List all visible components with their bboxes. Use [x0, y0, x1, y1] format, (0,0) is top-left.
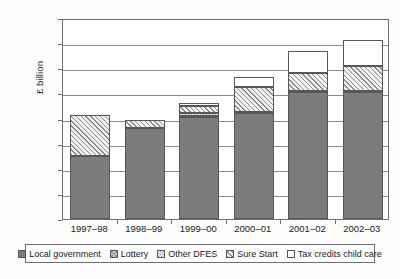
bar-stack: [288, 18, 328, 219]
stacked-bar-chart: £ billion 43.532.521.510.50 1997–981998–…: [0, 0, 400, 279]
legend-item[interactable]: Other DFES: [157, 249, 217, 259]
y-tick-mark: [58, 69, 62, 70]
bar-stack: [125, 18, 165, 219]
bar-segment: [179, 117, 219, 219]
bars-layer: [63, 20, 388, 219]
y-tick-mark: [58, 94, 62, 95]
legend-swatch-icon: [18, 250, 26, 258]
y-tick-mark: [58, 220, 62, 221]
bar-segment: [288, 92, 328, 219]
bar-segment: [179, 103, 219, 106]
bar-segment: [70, 115, 110, 156]
y-tick-mark: [58, 120, 62, 121]
bar-segment: [343, 66, 383, 91]
bar-stack: [234, 18, 274, 219]
bar-segment: [125, 120, 165, 128]
legend-label: Other DFES: [168, 249, 217, 259]
bar-segment: [288, 73, 328, 91]
bar-segment: [343, 40, 383, 66]
bar-segment: [288, 51, 328, 74]
y-tick-mark: [58, 44, 62, 45]
legend-swatch-icon: [287, 250, 295, 258]
legend-item[interactable]: Sure Start: [226, 249, 278, 259]
y-tick-mark: [58, 195, 62, 196]
legend-item[interactable]: Local government: [18, 249, 101, 259]
y-tick-mark: [58, 19, 62, 20]
legend-label: Sure Start: [237, 249, 278, 259]
bar-segment: [234, 77, 274, 87]
bar-stack: [70, 18, 110, 219]
bar-segment: [125, 128, 165, 219]
bar-segment: [234, 113, 274, 219]
legend-item[interactable]: Tax credits child care: [287, 249, 382, 259]
chart-legend: Local governmentLotteryOther DFESSure St…: [25, 244, 375, 263]
bar-segment: [179, 113, 219, 116]
legend-swatch-icon: [157, 250, 165, 258]
legend-item[interactable]: Lottery: [110, 249, 149, 259]
plot-area: [62, 19, 389, 220]
legend-swatch-icon: [226, 250, 234, 258]
legend-label: Lottery: [121, 249, 149, 259]
bar-segment: [70, 156, 110, 219]
bar-stack: [179, 18, 219, 219]
bar-segment: [234, 87, 274, 112]
bar-segment: [343, 92, 383, 219]
bar-stack: [343, 18, 383, 219]
y-tick-mark: [58, 170, 62, 171]
legend-swatch-icon: [110, 250, 118, 258]
legend-label: Local government: [29, 249, 101, 259]
y-axis-title: £ billion: [34, 33, 45, 123]
bar-segment: [179, 106, 219, 113]
x-tick-label: 2002–03: [330, 223, 394, 234]
legend-label: Tax credits child care: [298, 249, 382, 259]
y-tick-mark: [58, 145, 62, 146]
